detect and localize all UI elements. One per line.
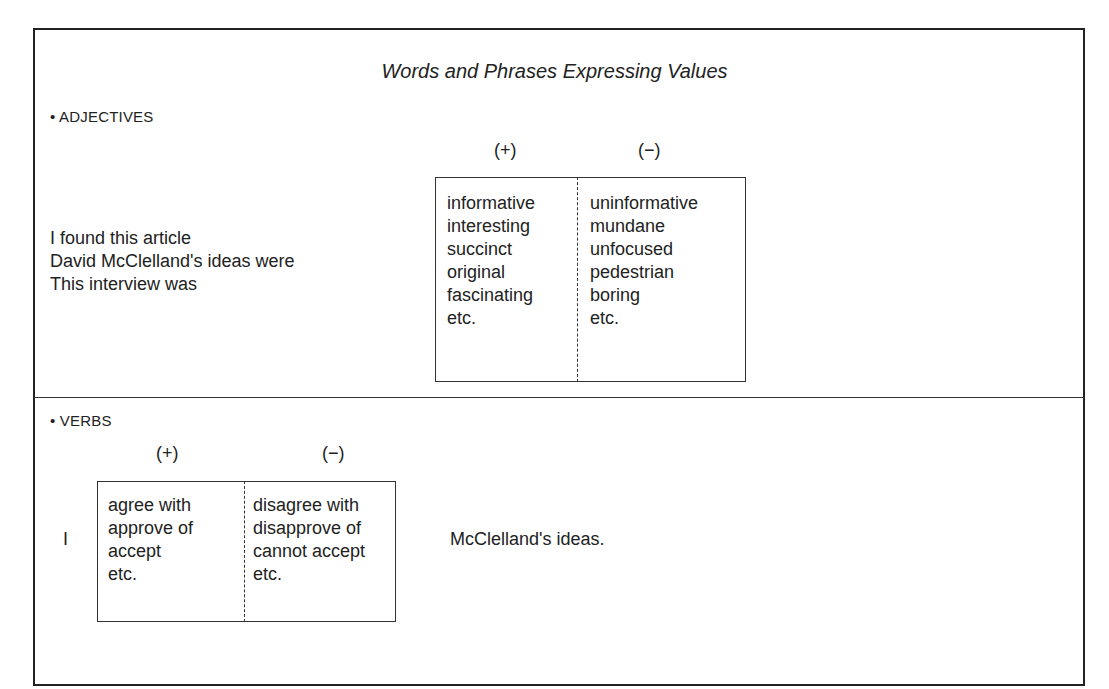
negative-verb: disagree with (253, 494, 365, 517)
positive-adjective: succinct (447, 238, 535, 261)
verb-object: McClelland's ideas. (450, 528, 605, 551)
verbs-positive-column: agree with approve of accept etc. (108, 494, 193, 586)
verb-subject: I (63, 528, 68, 551)
verbs-column-separator (244, 481, 245, 622)
verbs-minus-label: (−) (322, 443, 345, 464)
negative-adjective: mundane (590, 215, 698, 238)
adjectives-column-separator (577, 177, 578, 382)
section-divider (33, 397, 1085, 398)
adjectives-positive-column: informative interesting succinct origina… (447, 192, 535, 330)
negative-adjective: boring (590, 284, 698, 307)
positive-adjective: informative (447, 192, 535, 215)
positive-adjective: interesting (447, 215, 535, 238)
negative-adjective: etc. (590, 307, 698, 330)
stem: This interview was (50, 273, 295, 296)
positive-verb: agree with (108, 494, 193, 517)
positive-verb: accept (108, 540, 193, 563)
positive-adjective: fascinating (447, 284, 535, 307)
positive-adjective: etc. (447, 307, 535, 330)
positive-verb: approve of (108, 517, 193, 540)
positive-adjective: original (447, 261, 535, 284)
page-title: Words and Phrases Expressing Values (0, 60, 1109, 83)
negative-verb: disapprove of (253, 517, 365, 540)
negative-verb: etc. (253, 563, 365, 586)
negative-adjective: unfocused (590, 238, 698, 261)
positive-verb: etc. (108, 563, 193, 586)
adjectives-plus-label: (+) (494, 140, 517, 161)
stem: I found this article (50, 227, 295, 250)
adjectives-negative-column: uninformative mundane unfocused pedestri… (590, 192, 698, 330)
adjectives-minus-label: (−) (638, 140, 661, 161)
stem: David McClelland's ideas were (50, 250, 295, 273)
adjectives-heading: • ADJECTIVES (50, 108, 154, 125)
adjective-stems: I found this article David McClelland's … (50, 227, 295, 296)
verbs-negative-column: disagree with disapprove of cannot accep… (253, 494, 365, 586)
verbs-plus-label: (+) (156, 443, 179, 464)
verbs-heading: • VERBS (50, 412, 112, 429)
negative-adjective: pedestrian (590, 261, 698, 284)
negative-adjective: uninformative (590, 192, 698, 215)
negative-verb: cannot accept (253, 540, 365, 563)
